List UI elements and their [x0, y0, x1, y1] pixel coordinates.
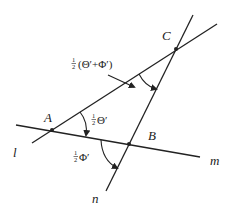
svg-text:(Θ′+Φ′): (Θ′+Φ′) [78, 58, 113, 71]
geometry-diagram: A B C l m n 1 2 (Θ′+Φ′) 1 2 Θ′ 1 2 Φ′ [0, 0, 231, 214]
angle-label-half-theta: 1 2 Θ′ [92, 112, 108, 126]
point-b [127, 142, 131, 146]
point-a [50, 128, 54, 132]
svg-text:2: 2 [74, 156, 77, 163]
angle-arc-half-phi [101, 140, 117, 168]
label-l: l [13, 145, 17, 160]
angle-arc-half-theta [80, 112, 86, 135]
label-b: B [148, 128, 156, 143]
angle-arc-half-sum [139, 74, 156, 89]
label-c: C [162, 28, 171, 43]
svg-text:Φ′: Φ′ [79, 151, 89, 163]
line-m [16, 125, 200, 157]
svg-text:2: 2 [72, 63, 75, 70]
line-n [106, 15, 193, 191]
angle-label-half-phi: 1 2 Φ′ [74, 149, 90, 163]
line-l [32, 24, 217, 143]
svg-text:1: 1 [72, 56, 75, 63]
label-a: A [43, 110, 52, 125]
label-m: m [210, 153, 219, 168]
svg-text:1: 1 [74, 149, 77, 156]
svg-text:1: 1 [92, 112, 95, 119]
label-n: n [92, 191, 99, 206]
angle-label-half-sum: 1 2 (Θ′+Φ′) [72, 56, 113, 71]
point-c [174, 47, 178, 51]
svg-text:Θ′: Θ′ [97, 114, 107, 126]
svg-text:2: 2 [92, 119, 95, 126]
